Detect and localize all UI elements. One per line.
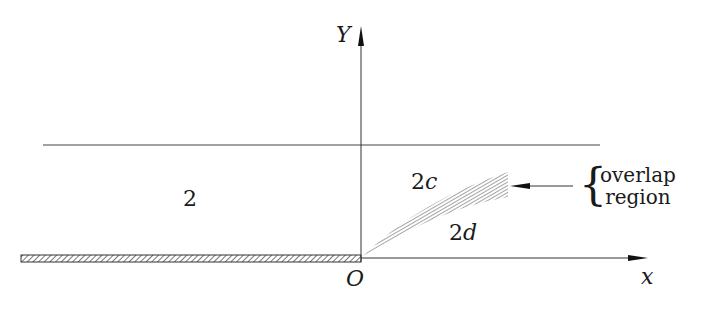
annotation-line-1: overlap [600,164,676,186]
region-2d-number: 2 [449,220,463,245]
annotation-line-2: region [600,186,676,208]
overlap-pointer-arrow [510,183,573,189]
x-axis-label: x [641,266,653,288]
region-2c-variable: c [425,169,437,194]
region-2c-label: 2c [411,171,437,193]
origin-label: O [346,268,364,290]
pointer-arrowhead-icon [510,183,530,189]
x-axis-arrowhead-icon [628,255,648,261]
x-axis [361,255,648,261]
region-2d-label: 2d [449,222,477,244]
region-2c-number: 2 [411,169,425,194]
y-axis-label: Y [336,24,351,46]
region-2-label: 2 [183,188,197,210]
y-axis-arrowhead-icon [358,26,364,46]
y-axis [358,26,364,262]
region-2d-variable: d [463,220,477,245]
overlap-region-annotation: overlap region [600,164,676,208]
flat-plate [21,255,361,262]
